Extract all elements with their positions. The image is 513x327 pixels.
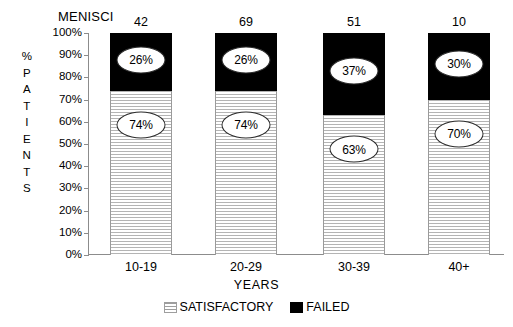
bar-segment-failed: 37% (323, 33, 385, 115)
bar-value-label-failed: 26% (222, 46, 271, 73)
y-axis-tick (84, 100, 89, 101)
y-axis-tick (84, 33, 89, 34)
y-axis-title-char: T (18, 164, 36, 181)
legend-label-satisfactory: SATISFACTORY (180, 300, 274, 314)
y-axis-tick (84, 166, 89, 167)
legend-item-satisfactory: SATISFACTORY (164, 300, 274, 314)
x-axis-title: YEARS (0, 278, 513, 292)
y-tick-label: 40% (38, 160, 82, 172)
bar-segment-failed: 30% (428, 33, 490, 100)
x-tick-label-10-19: 10-19 (125, 260, 157, 274)
y-tick-label: 0% (38, 249, 82, 261)
bar-value-label-satisfactory: 74% (222, 111, 271, 138)
legend-item-failed: FAILED (290, 300, 349, 314)
bar-count-label: 69 (239, 15, 253, 29)
bar-count-label: 10 (452, 15, 466, 29)
bar-segment-failed: 26% (110, 33, 172, 91)
y-axis-tick (84, 255, 89, 256)
y-axis-tick (84, 233, 89, 234)
y-tick-label: 10% (38, 227, 82, 239)
y-axis-title-char: S (18, 180, 36, 197)
y-axis-title-char: T (18, 98, 36, 115)
y-axis-tick (84, 144, 89, 145)
y-tick-label: 90% (38, 49, 82, 61)
y-axis-title-char: N (18, 147, 36, 164)
x-tick-label-40plus: 40+ (448, 260, 469, 274)
y-axis-tick (84, 188, 89, 189)
y-axis-title-char: E (18, 131, 36, 148)
y-tick-label: 20% (38, 205, 82, 217)
black-swatch-icon (290, 302, 303, 313)
x-tick-label-30-39: 30-39 (338, 260, 370, 274)
y-axis-title-char: % (18, 48, 36, 65)
bar-value-label-satisfactory: 63% (330, 136, 379, 163)
bar-segment-satisfactory: 74% (110, 91, 172, 255)
bar-segment-satisfactory: 70% (428, 100, 490, 255)
bar-value-label-failed: 26% (117, 46, 166, 73)
bar-count-label: 42 (134, 15, 148, 29)
y-axis-title: % P A T I E N T S (18, 48, 36, 197)
stacked-bar-chart: MENISCI % P A T I E N T S 100% 90% 80% 7… (0, 0, 513, 327)
y-tick-label: 50% (38, 138, 82, 150)
bar-value-label-failed: 37% (330, 57, 379, 84)
y-tick-label: 60% (38, 116, 82, 128)
y-axis-title-char: A (18, 81, 36, 98)
y-axis-title-char: I (18, 114, 36, 131)
bar-segment-failed: 26% (215, 33, 277, 91)
y-axis-tick (84, 122, 89, 123)
y-axis-tick (84, 77, 89, 78)
chart-legend: SATISFACTORY FAILED (0, 300, 513, 314)
bar-value-label-satisfactory: 70% (435, 120, 484, 147)
hatch-swatch-icon (164, 302, 177, 313)
plot-area: 42 26% 74% 69 26% 74% 51 37% 63 (88, 33, 504, 255)
bar-value-label-satisfactory: 74% (117, 111, 166, 138)
y-tick-label: 80% (38, 72, 82, 84)
bar-segment-satisfactory: 74% (215, 91, 277, 255)
y-axis-tick (84, 55, 89, 56)
y-axis-title-char: P (18, 65, 36, 82)
bar-value-label-failed: 30% (435, 50, 484, 77)
y-tick-label: 70% (38, 94, 82, 106)
bar-segment-satisfactory: 63% (323, 115, 385, 255)
x-tick-label-20-29: 20-29 (230, 260, 262, 274)
legend-label-failed: FAILED (306, 300, 349, 314)
y-tick-label: 100% (38, 27, 82, 39)
y-axis-tick (84, 211, 89, 212)
bar-count-label: 51 (347, 15, 361, 29)
y-tick-label: 30% (38, 183, 82, 195)
